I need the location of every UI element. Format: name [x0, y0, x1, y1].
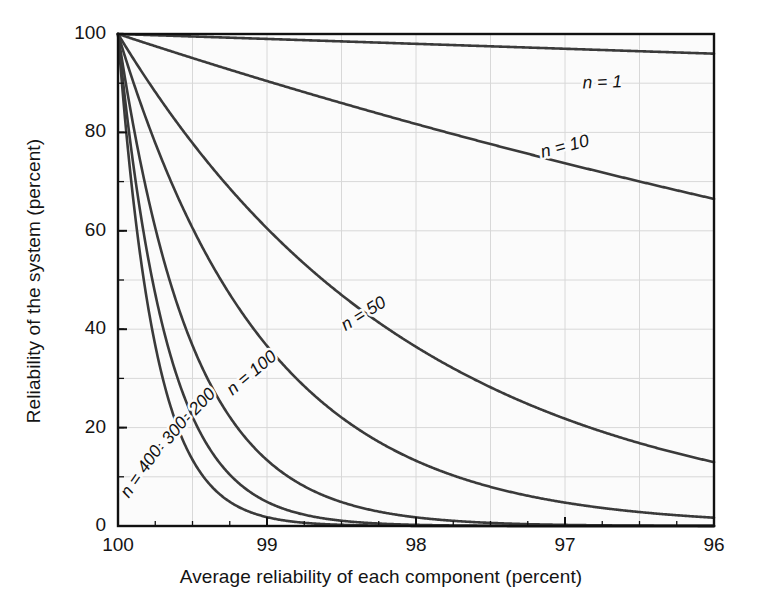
x-tick-label-100: 100 — [88, 534, 148, 556]
y-tick-label-40: 40 — [46, 317, 106, 339]
x-tick-label-99: 99 — [237, 534, 297, 556]
y-tick-label-0: 0 — [46, 514, 106, 536]
y-tick-label-60: 60 — [46, 219, 106, 241]
y-tick-label-80: 80 — [46, 120, 106, 142]
y-axis-label-container: Reliability of the system (percent) — [23, 81, 45, 481]
chart-plot-area: n = 1n = 1n = 10n = 10n = 50n = 50n = 10… — [0, 0, 762, 609]
curve-label-1: n = 1n = 1 — [582, 71, 622, 92]
y-axis-label: Reliability of the system (percent) — [23, 139, 44, 423]
svg-text:n = 1: n = 1 — [582, 71, 622, 92]
x-axis-label: Average reliability of each component (p… — [0, 566, 762, 588]
y-tick-label-100: 100 — [46, 22, 106, 44]
reliability-chart-figure: n = 1n = 1n = 10n = 10n = 50n = 50n = 10… — [0, 0, 762, 609]
y-tick-label-20: 20 — [46, 416, 106, 438]
x-tick-label-96: 96 — [684, 534, 744, 556]
x-tick-label-98: 98 — [386, 534, 446, 556]
x-tick-label-97: 97 — [535, 534, 595, 556]
